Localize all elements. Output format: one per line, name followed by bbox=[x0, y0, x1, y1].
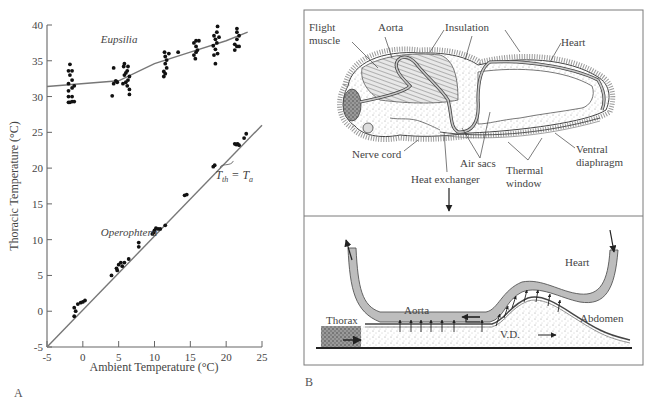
data-point bbox=[215, 30, 219, 34]
data-point bbox=[237, 143, 241, 147]
data-point bbox=[217, 35, 221, 39]
y-axis-label: Thoracic Temperature (°C) bbox=[7, 121, 21, 251]
y-tick-label: 15 bbox=[32, 198, 44, 210]
data-point bbox=[67, 69, 71, 73]
x-tick-label: 25 bbox=[257, 351, 269, 363]
label-heart-bottom: Heart bbox=[565, 256, 589, 268]
data-point bbox=[124, 71, 128, 75]
data-point bbox=[68, 73, 72, 77]
data-point bbox=[165, 58, 169, 62]
data-point bbox=[216, 25, 220, 29]
panel-b-letter: B bbox=[305, 375, 313, 390]
data-point bbox=[216, 52, 220, 56]
operophtera-label: Operophtera bbox=[101, 226, 158, 238]
data-point bbox=[74, 309, 78, 313]
thermoregulation-diagram: Flight muscle Aorta Insulation Heart Ner… bbox=[300, 0, 652, 405]
data-point bbox=[176, 50, 180, 54]
data-point bbox=[127, 257, 131, 261]
data-point bbox=[163, 223, 167, 227]
data-point bbox=[72, 314, 76, 318]
moth-body bbox=[340, 49, 613, 139]
data-point bbox=[163, 62, 167, 66]
data-point bbox=[194, 39, 198, 43]
panel-a-chart: -50510152025303540-50510152025 EupsiliaO… bbox=[0, 0, 300, 405]
data-point bbox=[185, 193, 189, 197]
data-point bbox=[72, 306, 76, 310]
data-point bbox=[212, 34, 216, 38]
data-point bbox=[137, 245, 141, 249]
data-point bbox=[123, 62, 127, 66]
y-tick-label: 0 bbox=[38, 305, 44, 317]
data-point bbox=[67, 89, 71, 93]
data-point bbox=[214, 37, 218, 41]
data-point bbox=[233, 48, 237, 52]
data-point bbox=[120, 264, 124, 268]
identity-line-label: Tth = Ta bbox=[215, 168, 253, 184]
label-insulation: Insulation bbox=[445, 21, 489, 33]
data-point bbox=[235, 37, 239, 41]
data-point bbox=[72, 84, 76, 88]
data-point bbox=[235, 30, 239, 34]
data-point bbox=[165, 66, 169, 70]
data-point bbox=[196, 48, 200, 52]
x-axis-label: Ambient Temperature (°C) bbox=[89, 360, 218, 374]
label-thorax: Thorax bbox=[326, 314, 358, 326]
data-point bbox=[112, 66, 116, 70]
y-tick-label: 5 bbox=[38, 269, 44, 281]
data-point bbox=[128, 88, 132, 92]
y-tick-label: 30 bbox=[32, 91, 44, 103]
label-aorta: Aorta bbox=[378, 21, 403, 33]
label-nerve-cord: Nerve cord bbox=[352, 148, 402, 160]
flow-in-arrow-icon bbox=[610, 230, 614, 252]
panel-a-letter: A bbox=[14, 386, 23, 401]
scatter-chart: -50510152025303540-50510152025 EupsiliaO… bbox=[0, 0, 300, 405]
data-point bbox=[83, 299, 87, 303]
label-ventral-diaphragm-2: diaphragm bbox=[576, 156, 623, 168]
label-air-sacs: Air sacs bbox=[460, 157, 496, 169]
data-point bbox=[158, 227, 162, 231]
data-point bbox=[213, 163, 217, 167]
data-point bbox=[125, 84, 129, 88]
data-point bbox=[128, 75, 132, 79]
label-aorta-bottom: Aorta bbox=[404, 304, 429, 316]
x-tick-label: -5 bbox=[42, 351, 52, 363]
data-point bbox=[237, 34, 241, 38]
data-point bbox=[163, 50, 167, 54]
label-ventral-diaphragm-1: Ventral bbox=[576, 143, 608, 155]
y-tick-label: 40 bbox=[32, 19, 44, 31]
data-point bbox=[193, 57, 197, 61]
data-point bbox=[237, 45, 241, 49]
label-heart: Heart bbox=[561, 36, 585, 48]
label-abdomen: Abdomen bbox=[580, 312, 624, 324]
data-point bbox=[215, 41, 219, 45]
y-tick-label: 35 bbox=[32, 55, 44, 67]
data-point bbox=[126, 78, 130, 82]
data-point bbox=[119, 261, 123, 265]
data-point bbox=[126, 65, 130, 69]
data-point bbox=[212, 53, 216, 57]
data-point bbox=[123, 261, 127, 265]
chart-lines bbox=[47, 32, 262, 347]
data-point bbox=[137, 241, 141, 245]
data-point bbox=[67, 82, 71, 86]
x-tick-label: 0 bbox=[80, 351, 86, 363]
data-point bbox=[214, 47, 218, 51]
y-tick-label: 10 bbox=[32, 234, 44, 246]
label-flight-muscle-1: Flight bbox=[309, 21, 335, 33]
panel-b-diagram: Flight muscle Aorta Insulation Heart Ner… bbox=[300, 0, 652, 405]
data-point bbox=[162, 70, 166, 74]
y-tick-label: 25 bbox=[32, 126, 44, 138]
schematic bbox=[316, 230, 632, 348]
data-point bbox=[67, 95, 71, 99]
label-thermal-window-1: Thermal bbox=[506, 164, 543, 176]
eupsilia-label: Eupsilia bbox=[100, 33, 138, 45]
data-point bbox=[214, 62, 218, 66]
data-point bbox=[235, 27, 239, 31]
data-point bbox=[115, 269, 119, 273]
data-point bbox=[70, 95, 74, 99]
x-tick-label: 20 bbox=[221, 351, 233, 363]
data-point bbox=[167, 52, 171, 56]
label-vd: V.D. bbox=[500, 328, 520, 340]
data-point bbox=[242, 136, 246, 140]
data-point bbox=[110, 94, 114, 98]
